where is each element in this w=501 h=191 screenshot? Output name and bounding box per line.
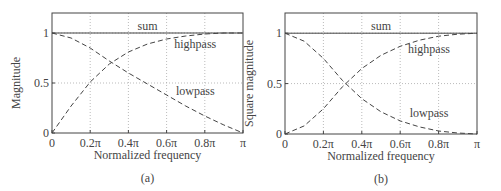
chart-panel-a: 00.2π0.4π0.6π0.8ππ00.51Normalized freque…	[9, 13, 246, 185]
y-tick-label: 0.5	[267, 77, 282, 91]
x-axis-label: Normalized frequency	[327, 149, 435, 163]
panel-caption: (a)	[141, 171, 154, 185]
x-axis-label: Normalized frequency	[94, 148, 202, 162]
figure: 00.2π0.4π0.6π0.8ππ00.51Normalized freque…	[0, 0, 501, 191]
x-tick-label: π	[240, 136, 246, 150]
y-tick-label: 1	[43, 26, 49, 40]
x-tick-label: 0	[49, 136, 55, 150]
y-axis-label: Magnitude	[9, 57, 23, 109]
annotation-lowpass: lowpass	[410, 106, 449, 120]
annotation-sum: sum	[137, 19, 158, 33]
y-tick-label: 0	[276, 127, 282, 141]
y-tick-label: 0.5	[34, 76, 49, 90]
annotation-highpass: highpass	[174, 37, 216, 51]
annotation-lowpass: lowpass	[176, 84, 215, 98]
x-tick-label: 0	[282, 137, 288, 151]
panel-caption: (b)	[374, 172, 388, 186]
annotation-sum: sum	[371, 19, 392, 33]
chart-panel-b: 00.2π0.4π0.6π0.8ππ00.51Normalized freque…	[242, 13, 480, 186]
y-axis-label: Square magnitude	[242, 40, 256, 127]
annotation-highpass: highpass	[408, 42, 450, 56]
x-tick-label: π	[474, 137, 480, 151]
y-tick-label: 1	[276, 26, 282, 40]
y-tick-label: 0	[43, 126, 49, 140]
